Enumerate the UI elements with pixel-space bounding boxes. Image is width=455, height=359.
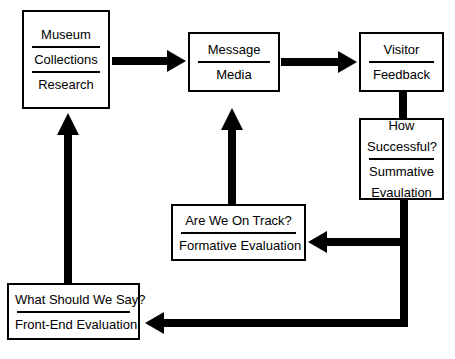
node-message-line-1: Message [190, 39, 278, 60]
node-museum-divider-2 [32, 71, 100, 73]
edge-how-successful-to-what-say-shaft [164, 319, 404, 327]
node-museum-divider-1 [32, 46, 100, 48]
node-visitor-divider-1 [369, 61, 434, 63]
edge-how-successful-to-on-track-shaft [327, 238, 403, 246]
node-how-successful-divider-1 [369, 158, 434, 160]
edge-on-track-to-message-arrowhead [221, 108, 243, 130]
edge-what-say-to-museum-shaft [64, 133, 72, 283]
edge-what-say-to-museum-arrowhead [57, 113, 79, 135]
node-what-say-line-1: What Should We Say? [9, 289, 138, 310]
node-museum[interactable]: Museum Collections Research [22, 10, 110, 109]
node-on-track-divider-1 [181, 232, 296, 234]
node-on-track-line-2: Formative Evaluation [173, 235, 304, 256]
edge-on-track-to-message-shaft [228, 128, 236, 204]
node-message-divider-1 [198, 61, 270, 63]
node-museum-line-3: Research [24, 74, 108, 95]
node-how-successful[interactable]: How Successful? Summative Evaulation [359, 118, 444, 200]
edge-message-to-visitor-arrowhead [338, 51, 357, 73]
node-visitor-line-1: Visitor [361, 39, 442, 60]
node-how-successful-line-2: Successful? [361, 136, 442, 157]
node-on-track-line-1: Are We On Track? [173, 210, 304, 231]
node-how-successful-line-3: Summative [361, 161, 442, 182]
edge-museum-to-message-shaft [112, 57, 170, 65]
node-how-successful-line-1: How [361, 115, 442, 136]
edge-right-trunk-vertical [400, 196, 408, 327]
node-on-track[interactable]: Are We On Track? Formative Evaluation [171, 204, 306, 261]
node-how-successful-line-4: Evaulation [361, 182, 442, 203]
node-visitor-line-2: Feedback [361, 64, 442, 85]
node-message-line-2: Media [190, 64, 278, 85]
node-message[interactable]: Message Media [188, 32, 280, 92]
node-what-say-line-2: Front-End Evaluation [9, 314, 138, 335]
node-visitor[interactable]: Visitor Feedback [359, 32, 444, 92]
node-museum-line-2: Collections [24, 49, 108, 70]
node-what-say-divider-1 [17, 311, 130, 313]
edge-how-successful-to-on-track-arrowhead [308, 231, 327, 253]
edge-museum-to-message-arrowhead [167, 50, 186, 72]
edge-how-successful-to-what-say-arrowhead [145, 312, 164, 334]
diagram-canvas: Museum Collections Research Message Medi… [0, 0, 455, 359]
node-museum-line-1: Museum [24, 24, 108, 45]
edge-message-to-visitor-shaft [281, 58, 339, 66]
node-what-say[interactable]: What Should We Say? Front-End Evaluation [7, 283, 140, 340]
